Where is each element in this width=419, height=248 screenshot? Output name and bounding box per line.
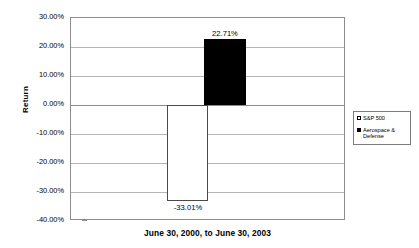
y-tick-label: 10.00% (18, 71, 64, 79)
plot-area: 22.71% -33.01% (70, 17, 345, 220)
bar-sp500 (167, 105, 208, 201)
y-tick-label: -40.00% (18, 216, 64, 224)
x-axis-title: June 30, 2000, to June 30, 2003 (70, 228, 345, 238)
data-label-aerospace-defense: 22.71% (185, 29, 265, 38)
y-tick-label: 30.00% (18, 13, 64, 21)
bar-aerospace-defense (204, 39, 246, 105)
legend-label-aerospace-defense: Aerospace & Defense (363, 127, 408, 140)
y-tick-label: 20.00% (18, 42, 64, 50)
y-tick-mark (82, 220, 87, 221)
chart-figure: Return 30.00% 20.00% 10.00% 0.00% -10.00… (0, 0, 419, 248)
y-tick-label: -20.00% (18, 158, 64, 166)
y-tick-label: 0.00% (18, 100, 64, 108)
legend-swatch-open-square-icon (357, 116, 361, 120)
data-label-sp500: -33.01% (148, 203, 228, 212)
legend-label-sp500: S&P 500 (363, 115, 385, 122)
legend-item-sp500: S&P 500 (357, 115, 408, 122)
legend-item-aerospace-defense: Aerospace & Defense (357, 127, 408, 140)
chart-legend: S&P 500 Aerospace & Defense (353, 111, 411, 145)
y-tick-label: -10.00% (18, 129, 64, 137)
y-axis-ticklabels: 30.00% 20.00% 10.00% 0.00% -10.00% -20.0… (18, 17, 64, 220)
legend-swatch-filled-square-icon (357, 128, 361, 132)
y-tick-label: -30.00% (18, 187, 64, 195)
